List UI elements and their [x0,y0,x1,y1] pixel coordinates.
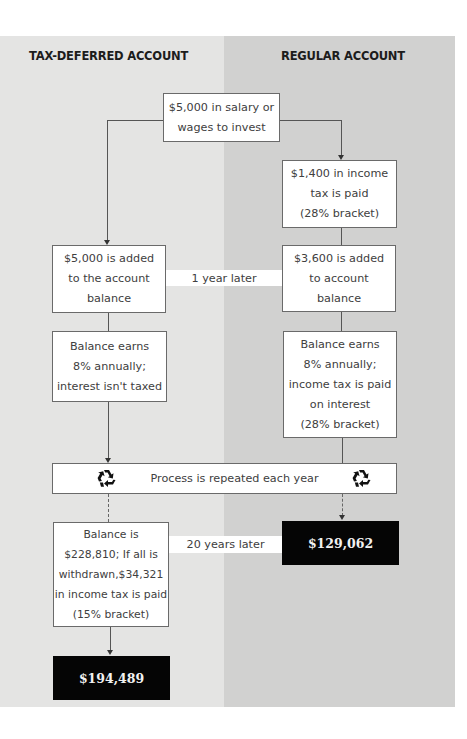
one-year-later-band: 1 year later [166,270,282,286]
tax-deferred-final-text: Balance is $228,810; If all is withdrawn… [55,525,167,625]
one-year-later-label: 1 year later [191,272,256,285]
twenty-years-later-band: 20 years later [169,536,282,553]
arrow-down-icon [339,515,345,520]
start-box: $5,000 in salary or wages to invest [163,93,280,142]
recycle-icon [350,467,374,491]
left-connector-final-result [110,627,111,651]
regular-added-text: $3,600 is added to account balance [294,249,384,309]
process-repeated-box: Process is repeated each year [52,463,397,494]
tax-deferred-earns-text: Balance earns 8% annually; interest isn'… [57,337,162,397]
regular-earns-text: Balance earns 8% annually; income tax is… [289,335,392,435]
regular-result-value: $129,062 [308,536,373,551]
tax-deferred-added-text: $5,000 is added to the account balance [64,249,154,309]
left-down-connector [107,120,108,240]
process-repeated-label: Process is repeated each year [119,469,350,489]
right-down-connector [341,120,342,155]
left-dashed-connector [108,494,109,522]
regular-tax-paid-text: $1,400 in income tax is paid (28% bracke… [291,164,388,224]
tax-deferred-result-value: $194,489 [79,671,144,686]
regular-result-box: $129,062 [282,521,399,565]
left-connector-added-earns [108,313,109,331]
regular-earns-box: Balance earns 8% annually; income tax is… [283,331,397,438]
right-connector-added-earns [341,312,342,331]
tax-deferred-result-box: $194,489 [53,656,170,700]
tax-deferred-heading: TAX-DEFERRED ACCOUNT [29,49,188,63]
regular-account-heading: REGULAR ACCOUNT [281,49,405,63]
right-dashed-connector [342,494,343,516]
right-connector-earns-process [342,438,343,463]
regular-added-box: $3,600 is added to account balance [282,245,396,312]
tax-deferred-final-box: Balance is $228,810; If all is withdrawn… [53,522,169,627]
recycle-icon [95,467,119,491]
left-connector-earns-process [108,402,109,458]
right-connector-tax-added [341,228,342,245]
tax-deferred-added-box: $5,000 is added to the account balance [52,245,166,313]
start-text: $5,000 in salary or wages to invest [169,98,274,138]
tax-deferred-earns-box: Balance earns 8% annually; interest isn'… [52,331,167,402]
regular-tax-paid-box: $1,400 in income tax is paid (28% bracke… [282,160,397,228]
arrow-down-icon [107,650,113,655]
twenty-years-later-label: 20 years later [187,538,265,551]
